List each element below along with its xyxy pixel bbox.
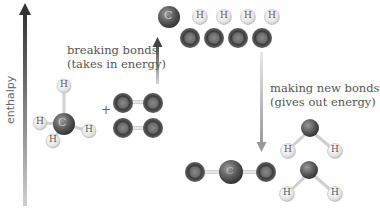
breaking-bonds-line1: breaking bonds bbox=[67, 43, 151, 57]
atom-label-hydrogen: H bbox=[196, 10, 204, 20]
making-bonds-line2: (gives out energy) bbox=[270, 95, 380, 109]
atom-label-hydrogen: H bbox=[284, 144, 292, 154]
atom-label-hydrogen: H bbox=[331, 144, 339, 154]
atom-label-hydrogen: H bbox=[268, 10, 276, 20]
atom-label-hydrogen: H bbox=[49, 134, 57, 144]
plus-sign: + bbox=[101, 103, 111, 117]
breaking-bonds-label: breaking bonds (takes in energy) bbox=[67, 43, 151, 71]
breaking-bonds-line2: (takes in energy) bbox=[67, 57, 151, 71]
atom-label-carbon: C bbox=[226, 165, 234, 176]
making-bonds-line1: making new bonds bbox=[270, 81, 380, 95]
atom-label-hydrogen: H bbox=[220, 10, 228, 20]
atom-label-hydrogen: H bbox=[85, 124, 93, 134]
atom-label-hydrogen: H bbox=[36, 116, 44, 126]
atom-label-hydrogen: H bbox=[244, 10, 252, 20]
enthalpy-axis-label: enthalpy bbox=[4, 76, 17, 124]
atom-label-carbon: C bbox=[164, 9, 172, 22]
atom-label-hydrogen: H bbox=[60, 79, 68, 89]
atom-label-carbon: C bbox=[58, 116, 66, 129]
making-bonds-label: making new bonds (gives out energy) bbox=[270, 81, 380, 109]
atom-label-hydrogen: H bbox=[331, 187, 339, 197]
atom-label-hydrogen: H bbox=[283, 187, 291, 197]
